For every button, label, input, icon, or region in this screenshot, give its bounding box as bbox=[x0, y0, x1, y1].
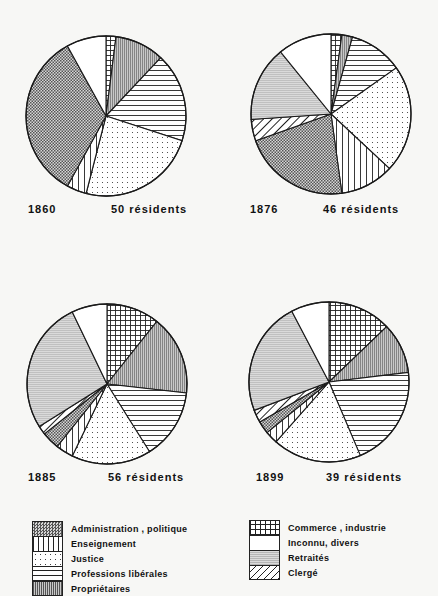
grid-swatch-icon bbox=[249, 520, 280, 535]
legend-label: Enseignement bbox=[71, 539, 136, 549]
legend-label: Inconnu, divers bbox=[288, 538, 359, 548]
gray-hlines-swatch-icon bbox=[249, 550, 280, 565]
legend-label: Administration , politique bbox=[71, 524, 187, 534]
legend-item-administration: Administration , politique bbox=[32, 521, 187, 536]
chart-residents-1899: 39 résidents bbox=[326, 471, 402, 483]
legend-left: Administration , politique Enseignement … bbox=[32, 521, 187, 596]
legend-item-justice: Justice bbox=[32, 551, 187, 566]
legend-item-clerge: Clergé bbox=[249, 565, 386, 580]
blank-swatch-icon bbox=[249, 535, 280, 550]
legend-label: Retraités bbox=[288, 553, 329, 563]
legend-label: Professions libérales bbox=[71, 569, 168, 579]
legend-label: Clergé bbox=[288, 568, 318, 578]
checker-swatch-icon bbox=[32, 521, 63, 536]
legend-label: Justice bbox=[71, 554, 104, 564]
chart-year-1876: 1876 bbox=[250, 203, 278, 215]
dots-swatch-icon bbox=[32, 551, 63, 566]
chart-year-1860: 1860 bbox=[28, 203, 56, 215]
legend-right: Commerce , industrie Inconnu, divers Ret… bbox=[249, 520, 386, 580]
legend-label: Commerce , industrie bbox=[288, 523, 386, 533]
dense-vlines-swatch-icon bbox=[32, 581, 63, 596]
diag-swatch-icon bbox=[249, 565, 280, 580]
chart-year-1899: 1899 bbox=[256, 471, 284, 483]
chart-residents-1876: 46 résidents bbox=[323, 203, 399, 215]
hlines-swatch-icon bbox=[32, 566, 63, 581]
legend-item-prof-liberales: Professions libérales bbox=[32, 566, 187, 581]
legend-item-retraites: Retraités bbox=[249, 550, 386, 565]
legend-item-proprietaires: Propriétaires bbox=[32, 581, 187, 596]
legend-item-inconnu: Inconnu, divers bbox=[249, 535, 386, 550]
vlines-swatch-icon bbox=[32, 536, 63, 551]
chart-residents-1885: 56 résidents bbox=[108, 471, 184, 483]
legend-item-enseignement: Enseignement bbox=[32, 536, 187, 551]
legend-item-commerce: Commerce , industrie bbox=[249, 520, 386, 535]
chart-year-1885: 1885 bbox=[28, 471, 56, 483]
chart-residents-1860: 50 résidents bbox=[111, 203, 187, 215]
legend-label: Propriétaires bbox=[71, 584, 130, 594]
